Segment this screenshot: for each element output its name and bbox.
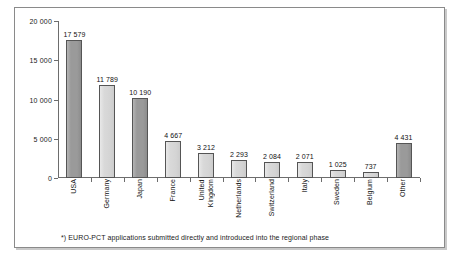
bar[interactable] [231, 160, 247, 178]
bar-slot: 11 789 [91, 21, 124, 178]
bar-value-label: 2 071 [296, 153, 314, 160]
x-axis-category-label: Sweden [321, 179, 354, 205]
x-axis-category-label: Germany [91, 179, 124, 209]
y-axis-tick-label: 10 000 [29, 96, 52, 103]
y-axis-tick-label: 5 000 [33, 135, 52, 142]
x-axis-category-label-text: Italy [301, 179, 310, 192]
x-axis-category-label-text: Other [399, 179, 408, 197]
bar-value-label: 2 293 [230, 151, 248, 158]
bar-value-label: 3 212 [197, 144, 215, 151]
bar[interactable] [99, 85, 115, 178]
bar-slot: 2 071 [288, 21, 321, 178]
x-axis-category-label: United Kingdom [190, 179, 223, 207]
y-axis-tick-label: 0 [48, 175, 52, 182]
chart-frame: 05 00010 00015 00020 000 17 57911 78910 … [14, 7, 445, 248]
x-axis-category-label-text: Switzerland [268, 179, 277, 216]
bar-value-label: 11 789 [97, 76, 119, 83]
bar[interactable] [264, 162, 280, 178]
bar-slot: 10 190 [124, 21, 157, 178]
x-axis-category-label: Belgium [354, 179, 387, 205]
bar-slot: 2 293 [223, 21, 256, 178]
bar-value-label: 10 190 [129, 89, 151, 96]
x-axis-category-label-text: France [169, 179, 178, 201]
y-axis-tick-label: 20 000 [29, 18, 52, 25]
bar-value-label: 2 084 [263, 153, 281, 160]
bar[interactable] [363, 172, 379, 178]
bar[interactable] [165, 141, 181, 178]
x-axis-category-label-text: Belgium [366, 179, 375, 205]
bar[interactable] [396, 143, 412, 178]
bar-value-label: 737 [365, 163, 377, 170]
bar-slot: 17 579 [58, 21, 91, 178]
x-axis-category-label-text: Japan [136, 179, 145, 199]
x-axis-category-label-text: Sweden [333, 179, 342, 205]
bar-series: 17 57911 78910 1904 6673 2122 2932 0842 … [58, 21, 420, 178]
x-axis-category-label: Italy [288, 179, 321, 192]
x-axis-category-label: France [157, 179, 190, 201]
plot-area: 05 00010 00015 00020 000 17 57911 78910 … [58, 21, 420, 178]
chart-screenshot: 05 00010 00015 00020 000 17 57911 78910 … [0, 0, 460, 262]
x-axis-category-label-text: USA [70, 179, 79, 194]
x-axis-category-label: Switzerland [255, 179, 288, 216]
x-axis-category-label-text: Germany [103, 179, 112, 209]
x-axis-category-label: USA [58, 179, 91, 194]
x-axis-category-label: Other [387, 179, 420, 197]
bar-value-label: 1 025 [329, 161, 347, 168]
bar[interactable] [66, 40, 82, 178]
bar-slot: 4 667 [157, 21, 190, 178]
bar-slot: 1 025 [321, 21, 354, 178]
chart-footnote: *) EURO-PCT applications submitted direc… [61, 234, 329, 241]
bar[interactable] [330, 170, 346, 178]
bar-slot: 2 084 [255, 21, 288, 178]
x-axis-tick-mark [420, 178, 421, 182]
bar-slot: 3 212 [190, 21, 223, 178]
x-axis-category-label-text: United Kingdom [198, 179, 215, 207]
bar-value-label: 4 431 [395, 134, 413, 141]
bar[interactable] [297, 162, 313, 178]
y-axis-tick-label: 15 000 [29, 57, 52, 64]
bar-value-label: 17 579 [63, 31, 85, 38]
bar-slot: 737 [354, 21, 387, 178]
x-axis-category-label-text: Netherlands [235, 179, 244, 218]
x-axis-category-label: Japan [124, 179, 157, 199]
x-axis-category-label: Netherlands [223, 179, 256, 218]
bar[interactable] [132, 98, 148, 178]
bar-value-label: 4 667 [164, 132, 182, 139]
bar[interactable] [198, 153, 214, 178]
bar-slot: 4 431 [387, 21, 420, 178]
